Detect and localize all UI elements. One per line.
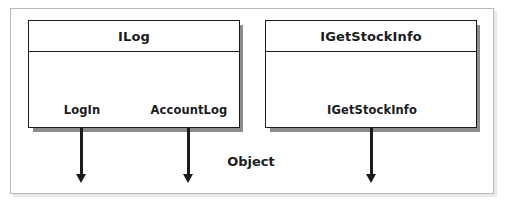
method-label-accountlog[interactable]: AccountLog	[151, 105, 228, 117]
arrow-head-accountlog	[183, 174, 193, 183]
connector-arrow-accountlog	[181, 127, 195, 183]
interface-title-ilog: ILog	[118, 30, 150, 43]
interface-box-ilog[interactable]: ILog LogIn AccountLog	[28, 20, 240, 128]
method-label-igetstockinfo[interactable]: IGetStockInfo	[327, 105, 417, 117]
diagram-canvas: ILog LogIn AccountLog IGetStockInfo IGet…	[0, 0, 505, 204]
arrow-stem-igetstockinfo	[370, 127, 373, 174]
interface-body-igetstockinfo: IGetStockInfo	[266, 52, 476, 127]
connector-arrow-igetstockinfo	[364, 127, 378, 183]
arrow-head-login	[76, 174, 86, 183]
interface-header-igetstockinfo: IGetStockInfo	[266, 21, 476, 52]
arrow-head-igetstockinfo	[366, 174, 376, 183]
interface-title-igetstockinfo: IGetStockInfo	[320, 30, 421, 43]
connector-arrow-login	[74, 127, 88, 183]
interface-header-ilog: ILog	[29, 21, 239, 52]
arrow-stem-login	[80, 127, 83, 174]
interface-body-ilog: LogIn AccountLog	[29, 52, 239, 127]
arrow-stem-accountlog	[187, 127, 190, 174]
object-caption: Object	[227, 155, 275, 168]
method-label-login[interactable]: LogIn	[64, 105, 100, 117]
interface-box-igetstockinfo[interactable]: IGetStockInfo IGetStockInfo	[265, 20, 477, 128]
